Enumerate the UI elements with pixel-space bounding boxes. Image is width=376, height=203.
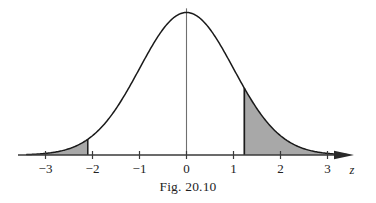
x-axis-label: z — [349, 163, 355, 177]
x-axis-tick-label: −2 — [86, 161, 100, 176]
figure-caption: Fig. 20.10 — [0, 179, 376, 195]
x-axis-tick-labels: −3−2−10123 — [39, 161, 331, 176]
x-axis-tick-label: −3 — [39, 161, 53, 176]
normal-distribution-figure: −3−2−10123 z Fig. 20.10 — [0, 0, 376, 203]
x-axis-tick-label: 2 — [277, 161, 284, 176]
left-tail-shaded-area — [27, 139, 88, 155]
x-axis-tick-label: 1 — [230, 161, 237, 176]
x-axis-tick-label: 0 — [183, 161, 190, 176]
normal-curve-chart: −3−2−10123 z — [0, 0, 376, 203]
x-axis-tick-label: 3 — [324, 161, 331, 176]
x-axis-tick-label: −1 — [133, 161, 147, 176]
x-axis-arrow-icon — [334, 151, 354, 159]
